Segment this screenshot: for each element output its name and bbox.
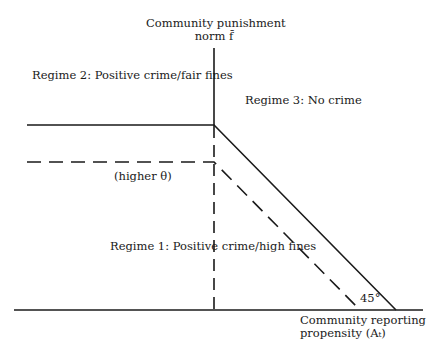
higher-theta-boundary-line: [27, 162, 360, 310]
x-axis-label-line2: propensity (Aₜ): [300, 327, 426, 340]
y-axis-label: Community punishment norm f̄: [146, 17, 282, 43]
regime1-label: Regime 1: Positive crime/high fines: [110, 240, 316, 253]
y-axis-label-line2: norm f̄: [146, 30, 282, 43]
angle-label: 45°: [360, 292, 380, 305]
baseline-boundary-line: [27, 125, 396, 310]
x-axis-label: Community reporting propensity (Aₜ): [300, 314, 426, 340]
regime3-label: Regime 3: No crime: [245, 94, 362, 107]
higher-theta-label: (higher θ): [114, 170, 172, 183]
regime2-label: Regime 2: Positive crime/fair fines: [32, 69, 233, 82]
